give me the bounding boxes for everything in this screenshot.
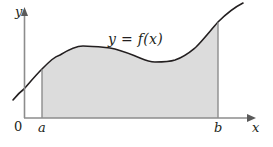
tick-label-a: a (38, 121, 46, 134)
area-under-curve-figure: y x 0 a b y = f(x) (0, 0, 273, 147)
function-equation-label: y = f(x) (108, 32, 163, 46)
tick-label-b: b (214, 121, 222, 134)
origin-label: 0 (14, 120, 22, 133)
x-axis-label: x (252, 121, 259, 134)
y-axis-label: y (15, 5, 22, 18)
